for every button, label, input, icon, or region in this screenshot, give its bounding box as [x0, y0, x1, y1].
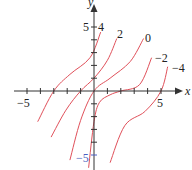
y-tick-label-5: 5 [83, 20, 89, 34]
curve-label-neg2: −2 [155, 51, 168, 65]
x-tick-label-5: 5 [157, 96, 163, 110]
curve-0 [70, 39, 144, 161]
y-axis-label: y [87, 0, 94, 9]
curve-label-4: 4 [98, 20, 104, 34]
curve-2 [51, 39, 117, 138]
chart: x y −5 5 5 −5 4 2 0 −2 −4 [0, 0, 192, 170]
y-tick-label-neg5: −5 [76, 151, 89, 165]
curve-label-neg4: −4 [172, 61, 185, 75]
x-axis-arrow-icon [175, 88, 183, 95]
curve-neg4 [110, 67, 168, 163]
curve-4 [38, 32, 101, 122]
curve-label-0: 0 [145, 31, 151, 45]
x-tick-label-neg5: −5 [17, 96, 30, 110]
x-axis-label: x [184, 84, 191, 98]
curve-label-2: 2 [117, 27, 123, 41]
solution-curves [38, 32, 168, 168]
